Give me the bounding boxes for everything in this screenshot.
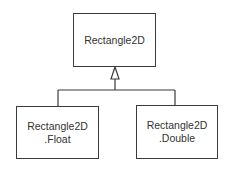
class-name-line1: Rectangle2D [147, 119, 208, 132]
class-box-parent: Rectangle2D [73, 13, 156, 67]
class-name-line2: .Float [44, 133, 70, 146]
class-box-double: Rectangle2D .Double [136, 105, 218, 159]
inheritance-arrow-icon [111, 67, 119, 79]
class-name-line2: .Double [159, 132, 195, 145]
class-box-float: Rectangle2D .Float [16, 106, 99, 159]
class-name-line1: Rectangle2D [27, 120, 88, 133]
class-name: Rectangle2D [84, 34, 145, 47]
